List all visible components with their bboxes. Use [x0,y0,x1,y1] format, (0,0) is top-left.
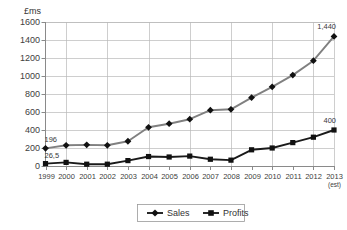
y-tick-label: 200 [25,143,40,153]
x-tick-label: 2005 [161,172,178,181]
x-tick-label: 2009 [244,172,261,181]
legend-label-sales[interactable]: Sales [167,208,190,218]
chart-legend: SalesProfits [138,205,250,222]
line-chart: £ms 02004006008001000120014001600 199920… [0,0,347,230]
x-tick-label: 2013 [326,172,343,181]
data-point-label: 26,5 [45,151,60,160]
x-tick-label: 2012 [305,172,322,181]
y-tick-label: 0 [35,161,40,171]
data-point-marker [249,147,254,152]
data-point-marker [43,161,48,166]
data-point-marker [64,160,69,165]
x-tick-label: 2001 [79,172,96,181]
y-tick-label: 400 [25,125,40,135]
x-tick-label: 2010 [264,172,281,181]
y-tick-label: 600 [25,107,40,117]
legend-label-profits[interactable]: Profits [223,208,249,218]
y-tick-label: 800 [25,89,40,99]
data-point-marker [167,154,172,159]
data-point-label: 400 [323,116,336,125]
chart-background [0,0,347,230]
data-point-marker [105,162,110,167]
x-tick-label: 2006 [182,172,199,181]
data-point-marker [125,158,130,163]
data-point-marker [187,154,192,159]
x-tick-label: 2008 [223,172,240,181]
legend-marker-square [208,210,214,216]
x-tick-label: 2003 [120,172,137,181]
y-axis-title: £ms [24,6,42,16]
data-point-marker [270,145,275,150]
x-tick-label: 2011 [285,172,301,181]
data-point-marker [84,162,89,167]
y-tick-label: 1200 [20,53,40,63]
data-point-label: 196 [45,135,58,144]
x-tick-label: 2002 [99,172,116,181]
data-point-marker [331,127,336,132]
chart-svg: £ms 02004006008001000120014001600 199920… [0,0,347,230]
y-tick-label: 1000 [20,71,40,81]
data-point-label: 1,440 [317,22,336,31]
data-point-marker [208,157,213,162]
y-tick-label: 1400 [20,35,40,45]
data-point-marker [146,154,151,159]
data-point-marker [311,135,316,140]
x-tick-sublabel: (est) [328,181,341,189]
x-tick-label: 2000 [58,172,75,181]
x-tick-label: 1999 [38,172,55,181]
x-tick-label: 2007 [202,172,219,181]
data-point-marker [290,140,295,145]
data-point-marker [228,158,233,163]
x-tick-label: 2004 [141,172,158,181]
y-tick-label: 1600 [20,17,40,27]
